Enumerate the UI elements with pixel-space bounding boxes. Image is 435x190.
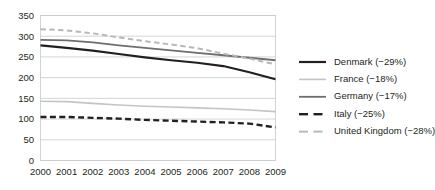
legend-item-label: Italy (−25%) (334, 108, 385, 119)
line-chart: 050100150200250300350 200020012002200320… (0, 0, 435, 190)
legend-item-label: Denmark (−29%) (334, 56, 406, 67)
y-tick-label-250: 250 (18, 51, 34, 62)
x-tick-label-2005: 2005 (160, 166, 181, 177)
y-tick-label-100: 100 (18, 113, 34, 124)
legend-item-label: Germany (−17%) (334, 90, 407, 101)
y-tick-label-50: 50 (23, 134, 34, 145)
legend-item-label: France (−18%) (334, 73, 397, 84)
y-tick-label-300: 300 (18, 31, 34, 42)
y-tick-label-0: 0 (29, 155, 34, 166)
x-tick-label-2006: 2006 (187, 166, 208, 177)
x-tick-label-2008: 2008 (239, 166, 260, 177)
y-tick-label-200: 200 (18, 72, 34, 83)
legend-item-label: United Kingdom (−28%) (334, 125, 435, 136)
y-tick-label-350: 350 (18, 10, 34, 21)
x-tick-label-2003: 2003 (108, 166, 129, 177)
x-tick-label-2001: 2001 (56, 166, 77, 177)
y-tick-label-150: 150 (18, 93, 34, 104)
x-tick-label-2004: 2004 (134, 166, 155, 177)
chart-container: 050100150200250300350 200020012002200320… (0, 0, 435, 190)
x-tick-label-2009: 2009 (265, 166, 286, 177)
x-tick-label-2002: 2002 (82, 166, 103, 177)
x-tick-label-2000: 2000 (30, 166, 51, 177)
x-tick-label-2007: 2007 (213, 166, 234, 177)
